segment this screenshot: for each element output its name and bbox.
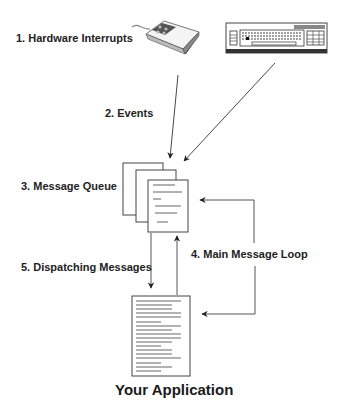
step-main-message-loop: 4. Main Message Loop (191, 248, 308, 260)
stacked-documents-icon (123, 163, 188, 232)
mouse-icon (132, 21, 199, 54)
application-title: Your Application (115, 381, 233, 398)
step-dispatching-messages: 5. Dispatching Messages (21, 261, 152, 273)
step-hardware-interrupts: 1. Hardware Interrupts (16, 32, 133, 44)
keyboard-event-arrow (184, 63, 275, 161)
step-message-queue: 3. Message Queue (21, 180, 117, 192)
mouse-event-arrow (170, 75, 178, 158)
step-events: 2. Events (105, 107, 153, 119)
document-icon (132, 296, 190, 376)
diagram-canvas (0, 0, 343, 416)
keyboard-icon (226, 23, 327, 53)
